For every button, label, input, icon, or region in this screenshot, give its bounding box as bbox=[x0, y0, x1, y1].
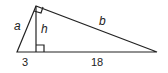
label-h: h bbox=[41, 22, 48, 36]
label-segment-right: 18 bbox=[91, 56, 103, 68]
label-b: b bbox=[99, 14, 106, 28]
right-angle-marker-base bbox=[36, 45, 44, 52]
label-a: a bbox=[14, 19, 21, 33]
label-segment-left: 3 bbox=[22, 56, 28, 68]
triangle-diagram: a h b 3 18 bbox=[0, 0, 168, 73]
